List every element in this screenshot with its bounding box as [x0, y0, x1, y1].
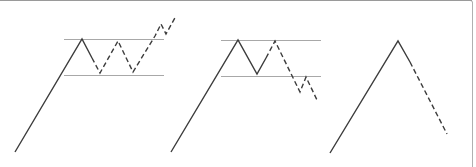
- panel-peak-reversal: [330, 41, 447, 153]
- diagram-frame: [0, 0, 476, 167]
- pattern-diagram: [0, 0, 476, 167]
- price-path-projected: [410, 62, 447, 134]
- panel-range-breakdown: [171, 40, 321, 152]
- price-path-solid: [171, 40, 266, 152]
- price-path-solid: [330, 41, 410, 153]
- panel-range-breakout-up: [15, 16, 176, 152]
- price-path-solid: [15, 39, 92, 152]
- price-path-projected: [92, 16, 176, 73]
- panels-group: [15, 16, 447, 153]
- price-path-projected: [266, 41, 317, 100]
